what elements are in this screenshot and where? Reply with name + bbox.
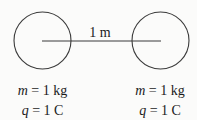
two-charged-spheres-diagram: 1 m m = 1 kg q = 1 C m = 1 kg q = 1 C [0,0,197,120]
left-charge-label: q = 1 C [22,103,64,118]
left-charge-eq: = 1 C [29,103,64,118]
left-mass-eq: = 1 kg [28,83,67,98]
left-mass-var: m [18,83,28,98]
left-mass-label: m = 1 kg [18,83,68,98]
left-charge-var: q [22,103,29,118]
right-mass-eq: = 1 kg [145,83,184,98]
separation-label: 1 m [89,25,111,40]
right-mass-label: m = 1 kg [135,83,185,98]
right-charge-label: q = 1 C [139,103,181,118]
right-charge-eq: = 1 C [146,103,181,118]
right-mass-var: m [135,83,145,98]
right-charge-var: q [139,103,146,118]
